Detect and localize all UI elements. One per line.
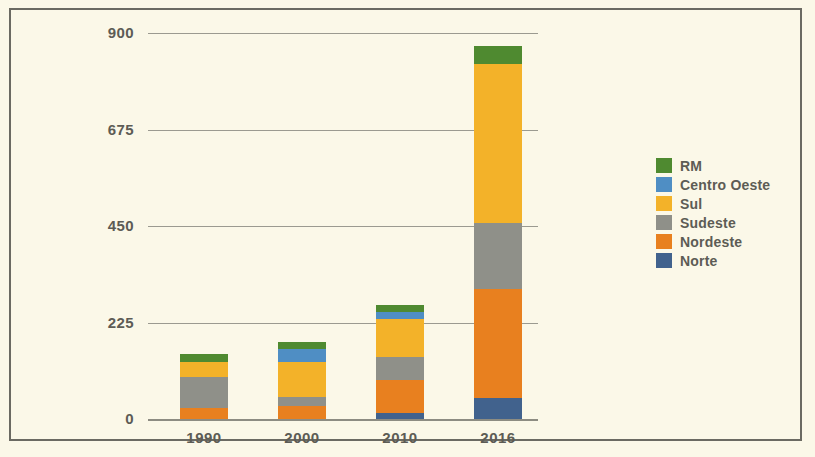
y-axis-tick-label-900: 900 (54, 24, 134, 41)
bar-segment-2010-norte[interactable] (376, 413, 424, 419)
legend-item-sul[interactable]: Sul (656, 194, 770, 213)
plot-area: 02254506759001990200020102016 (148, 33, 538, 419)
legend-item-sudeste[interactable]: Sudeste (656, 213, 770, 232)
y-axis-tick-label-225: 225 (54, 314, 134, 331)
bar-segment-2000-rm[interactable] (278, 342, 326, 349)
bar-segment-1990-rm[interactable] (180, 354, 228, 362)
x-axis-tick-label-1990: 1990 (159, 429, 249, 446)
bar-segment-2000-sul[interactable] (278, 362, 326, 397)
bar-segment-2000-sudeste[interactable] (278, 397, 326, 406)
bar-segment-1990-sudeste[interactable] (180, 377, 228, 408)
gridline-900 (148, 33, 538, 34)
x-axis-tick-label-2010: 2010 (355, 429, 445, 446)
bar-segment-2010-nordeste[interactable] (376, 380, 424, 413)
bar-2016[interactable] (474, 46, 522, 419)
x-axis-tick-label-2016: 2016 (453, 429, 543, 446)
bar-segment-2010-sudeste[interactable] (376, 357, 424, 380)
legend-item-nordeste[interactable]: Nordeste (656, 232, 770, 251)
legend-item-label: Sudeste (680, 215, 736, 231)
bar-segment-2016-norte[interactable] (474, 398, 522, 419)
bar-segment-2010-centro-oeste[interactable] (376, 312, 424, 319)
legend-item-norte[interactable]: Norte (656, 251, 770, 270)
y-axis-tick-label-0: 0 (54, 410, 134, 427)
bar-segment-2016-sul[interactable] (474, 64, 522, 224)
legend-item-label: Norte (680, 253, 718, 269)
legend-item-label: RM (680, 158, 702, 174)
bar-segment-2000-nordeste[interactable] (278, 406, 326, 419)
bar-1990[interactable] (180, 354, 228, 419)
x-axis-tick-label-2000: 2000 (257, 429, 347, 446)
bar-2000[interactable] (278, 342, 326, 419)
chart-frame: Número de municípios metropolitanos 0225… (9, 8, 802, 441)
legend-item-label: Sul (680, 196, 702, 212)
y-axis-title-line1: Número de municípios (29, 0, 49, 70)
bar-2010[interactable] (376, 305, 424, 419)
legend-swatch-icon (656, 158, 672, 173)
bar-segment-1990-sul[interactable] (180, 362, 228, 377)
legend-item-centro-oeste[interactable]: Centro Oeste (656, 175, 770, 194)
legend-item-label: Centro Oeste (680, 177, 770, 193)
legend-swatch-icon (656, 234, 672, 249)
chart-legend: RMCentro OesteSulSudesteNordesteNorte (656, 156, 770, 270)
x-axis-line (148, 419, 538, 421)
bar-segment-2000-centro-oeste[interactable] (278, 349, 326, 362)
bar-segment-1990-nordeste[interactable] (180, 408, 228, 419)
bar-segment-2010-sul[interactable] (376, 319, 424, 357)
legend-item-rm[interactable]: RM (656, 156, 770, 175)
bar-segment-2016-nordeste[interactable] (474, 289, 522, 398)
bar-segment-2016-sudeste[interactable] (474, 223, 522, 289)
legend-swatch-icon (656, 196, 672, 211)
bar-segment-2010-rm[interactable] (376, 305, 424, 312)
legend-swatch-icon (656, 177, 672, 192)
legend-swatch-icon (656, 215, 672, 230)
legend-item-label: Nordeste (680, 234, 742, 250)
y-axis-tick-label-450: 450 (54, 217, 134, 234)
legend-swatch-icon (656, 253, 672, 268)
y-axis-tick-label-675: 675 (54, 121, 134, 138)
bar-segment-2016-rm[interactable] (474, 46, 522, 64)
